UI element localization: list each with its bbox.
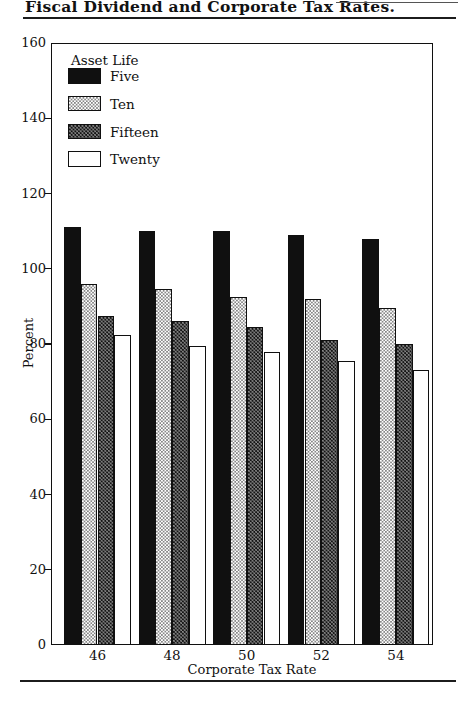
x-tick-label: 46 — [76, 648, 120, 663]
bar-fifteen-50 — [247, 327, 264, 645]
y-tick-mark — [45, 193, 52, 194]
bar-five-52 — [288, 235, 305, 645]
bar-twenty-54 — [413, 370, 430, 645]
bar-twenty-46 — [114, 335, 131, 645]
bar-ten-50 — [230, 297, 247, 645]
x-tick-label: 54 — [374, 648, 418, 663]
legend-title: Asset Life — [71, 52, 139, 68]
bar-fifteen-48 — [172, 321, 189, 645]
x-axis-title: Corporate Tax Rate — [171, 662, 333, 677]
legend-label: Twenty — [110, 151, 160, 167]
title-underline-rule — [23, 17, 456, 19]
y-tick-mark — [45, 494, 52, 495]
legend-swatch-fifteen — [68, 124, 101, 140]
bar-twenty-50 — [264, 352, 281, 645]
y-tick-label: 140 — [6, 110, 46, 126]
y-tick-label: 100 — [6, 261, 46, 277]
legend-swatch-ten — [68, 96, 101, 112]
legend-swatch-twenty — [68, 151, 101, 167]
bar-five-48 — [139, 231, 156, 645]
bar-twenty-52 — [338, 361, 355, 645]
y-tick-label: 20 — [6, 562, 46, 578]
figure-page: Fiscal Dividend and Corporate Tax Rates.… — [0, 0, 462, 702]
y-tick-mark — [45, 343, 52, 344]
bar-twenty-48 — [189, 346, 206, 645]
bar-fifteen-52 — [321, 340, 338, 645]
footer-rule — [20, 680, 456, 682]
y-tick-label: 60 — [6, 411, 46, 427]
bar-five-46 — [64, 227, 81, 645]
bar-fifteen-54 — [396, 344, 413, 645]
y-tick-mark — [45, 569, 52, 570]
title-top-rule — [336, 2, 458, 3]
legend-swatch-five — [68, 68, 101, 84]
bar-five-50 — [213, 231, 230, 645]
bar-ten-52 — [305, 299, 322, 645]
bar-ten-54 — [379, 308, 396, 645]
legend-label: Fifteen — [110, 124, 159, 140]
y-tick-mark — [45, 419, 52, 420]
y-tick-mark — [45, 118, 52, 119]
y-tick-label: 40 — [6, 487, 46, 503]
bar-ten-48 — [155, 289, 172, 645]
bar-five-54 — [362, 239, 379, 645]
y-tick-mark — [45, 268, 52, 269]
legend-label: Five — [110, 68, 139, 84]
legend-label: Ten — [110, 96, 135, 112]
bar-fifteen-46 — [98, 316, 115, 645]
y-tick-label: 0 — [6, 637, 46, 653]
y-tick-label: 160 — [6, 35, 46, 51]
bar-ten-46 — [81, 284, 98, 645]
y-tick-label: 120 — [6, 186, 46, 202]
y-axis-title: Percent — [21, 318, 36, 369]
